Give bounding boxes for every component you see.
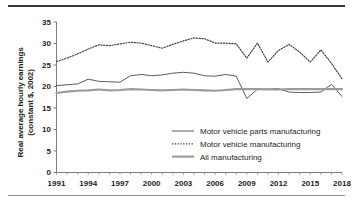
x-axis-tick-label: 1991 [48, 179, 66, 188]
series-line-1 [57, 38, 343, 79]
legend-layer: Motor vehicle parts manufacturingMotor v… [172, 127, 321, 162]
series-line-0 [57, 72, 343, 98]
x-axis-tick-label: 1994 [79, 179, 97, 188]
y-axis-tick-label: 30 [42, 39, 51, 48]
y-axis-tick-label: 5 [47, 147, 52, 156]
series-layer [57, 38, 343, 99]
x-axis-tick-label: 2006 [206, 179, 224, 188]
y-axis-tick-label: 35 [42, 18, 51, 27]
x-axis-tick-label: 2015 [301, 179, 319, 188]
axes-layer: 0510152025303519911994199720002003200620… [42, 18, 351, 188]
y-axis-tick-label: 25 [42, 61, 51, 70]
y-axis-tick-label: 15 [42, 104, 51, 113]
x-axis-tick-label: 2000 [143, 179, 161, 188]
y-axis-tick-label: 0 [47, 168, 52, 177]
y-axis-tick-label: 10 [42, 125, 51, 134]
legend-label-0[interactable]: Motor vehicle parts manufacturing [200, 127, 321, 136]
x-axis-tick-label: 2009 [238, 179, 256, 188]
figure-container: Real average hourly earnings (constant $… [0, 0, 353, 205]
x-axis-tick-label: 2012 [270, 179, 288, 188]
x-axis-tick-label: 2003 [174, 179, 192, 188]
legend-label-2[interactable]: All manufacturing [200, 153, 262, 162]
line-chart-plot: 0510152025303519911994199720002003200620… [0, 0, 353, 205]
x-axis-tick-label: 1997 [111, 179, 129, 188]
legend-label-1[interactable]: Motor vehicle manufacturing [200, 140, 301, 149]
y-axis-tick-label: 20 [42, 82, 51, 91]
x-axis-tick-label: 2018 [333, 179, 351, 188]
